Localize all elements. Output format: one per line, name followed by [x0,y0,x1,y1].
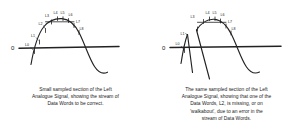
sample-label-l8: L8 [232,27,236,31]
zero-axis-label: 0 [11,45,15,51]
caption-line: Analogue Signal, showing the stream of [0,93,151,100]
left-caption: Small sampled section of the Left Analog… [0,86,151,108]
sample-label-l1: L1 [181,32,185,36]
figure-row: 0 L0 L1 [0,0,302,134]
caption-line: 'walkabout', due to an error in the [151,108,302,115]
sample-label-l3: L3 [191,15,195,19]
right-panel: 0 [151,0,302,134]
sample-label-l0: L0 [176,42,180,46]
caption-line: Analogue Signal, showing that one of the [151,93,302,100]
zero-axis-label: 0 [162,45,166,51]
zero-axis-line [170,46,281,47]
caption-line: Data Words to be correct. [0,100,151,107]
left-waveform-diagram: 0 L0 L1 [0,0,151,84]
sample-label-l4: L4 [54,11,58,15]
caption-line: The same sampled section of the Left [151,86,302,93]
sample-label-l7: L7 [228,20,232,24]
sample-label-l6: L6 [69,13,73,17]
left-panel: 0 L0 L1 [0,0,151,134]
caption-line: stream of Data Words. [151,115,302,122]
sample-label-l4: L4 [206,11,210,15]
right-waveform-diagram: 0 [151,0,302,84]
sample-label-l0: L0 [25,43,29,47]
sample-label-l8: L8 [80,27,84,31]
caption-line: Data Words, L2, is missing, or on [151,100,302,107]
caption-line: Small sampled section of the Left [0,86,151,93]
sample-label-l2: L2 [39,22,43,26]
right-caption: The same sampled section of the Left Ana… [151,86,302,122]
sample-label-l1: L1 [31,34,35,38]
sample-label-l5: L5 [213,11,217,15]
sample-label-l7: L7 [76,20,80,24]
waveform-break-edge-left [188,35,193,73]
sample-label-l6: L6 [221,13,225,17]
sample-label-l5: L5 [61,11,65,15]
waveform-discontinuity-line [197,30,210,79]
sample-label-l3: L3 [45,14,49,18]
waveform-curve [31,19,108,74]
